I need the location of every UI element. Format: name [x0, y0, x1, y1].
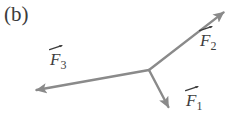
panel-label: (b) [4, 1, 29, 27]
force-label-f2-sub: 2 [210, 40, 216, 52]
force-label-f2: F 2 [200, 32, 216, 49]
force-vector-f3-arrow [37, 70, 149, 90]
force-vector-f1-arrow [149, 70, 168, 107]
vector-arrow-accent-icon [199, 25, 214, 32]
force-label-f3: F 3 [50, 51, 66, 68]
force-label-f1: F 1 [186, 92, 202, 109]
vector-arrow-accent-icon [49, 44, 64, 51]
force-label-f2-base: F [200, 32, 210, 49]
force-label-f1-stack: F [186, 92, 196, 109]
vector-diagram-figure: (b) F 1 F 2 F 3 [0, 0, 237, 119]
force-label-f1-base: F [186, 92, 196, 109]
force-label-f1-sub: 1 [196, 100, 202, 112]
force-label-f3-base: F [50, 51, 60, 68]
force-label-f3-sub: 3 [60, 59, 66, 71]
force-label-f3-stack: F [50, 51, 60, 68]
vector-arrow-accent-icon [185, 85, 200, 92]
force-label-f2-stack: F [200, 32, 210, 49]
